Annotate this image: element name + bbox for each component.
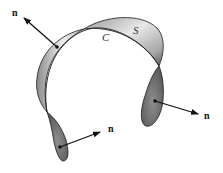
- surface-diagram: n n n S C: [0, 0, 223, 173]
- surface-top-band: [84, 18, 163, 66]
- curve-label-c: C: [102, 31, 110, 43]
- surface-right-lobe: [141, 66, 163, 126]
- normal-arrow-upper-left: [24, 18, 57, 47]
- normal-label-upper-left: n: [12, 7, 18, 18]
- surface-lower-left-lobe: [47, 112, 68, 161]
- surface-label-s: S: [133, 24, 139, 36]
- surface-left-band: [37, 29, 84, 112]
- normal-label-right: n: [204, 110, 210, 121]
- normal-label-lower-left: n: [108, 123, 114, 134]
